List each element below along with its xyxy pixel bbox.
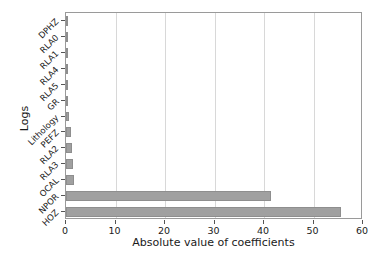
y-tick	[61, 100, 65, 101]
x-tick	[214, 220, 215, 224]
y-tick	[61, 147, 65, 148]
bar	[66, 207, 341, 217]
y-tick-label-wrap: RLA1	[0, 47, 59, 57]
x-tick	[313, 220, 314, 224]
bar	[66, 80, 68, 90]
bar	[66, 112, 69, 122]
x-tick-label: 40	[257, 225, 269, 236]
y-tick-label-wrap: RLA0	[0, 31, 59, 41]
y-tick-label-wrap: NPOR	[0, 190, 59, 200]
y-tick-label-wrap: RLA4	[0, 63, 59, 73]
x-tick-label: 10	[108, 225, 120, 236]
x-tick-label: 20	[158, 225, 170, 236]
x-tick	[362, 220, 363, 224]
y-tick-label-wrap: Lithology	[0, 111, 59, 121]
y-tick-label-wrap: GR	[0, 95, 59, 105]
y-tick	[61, 36, 65, 37]
plot-area	[65, 12, 362, 219]
bar	[66, 32, 68, 42]
y-tick	[61, 84, 65, 85]
bar	[66, 96, 68, 106]
gridline	[215, 13, 216, 218]
x-tick	[164, 220, 165, 224]
y-tick	[61, 52, 65, 53]
y-tick-label-wrap: RLA3	[0, 158, 59, 168]
x-tick	[65, 220, 66, 224]
gridline	[264, 13, 265, 218]
y-tick	[61, 211, 65, 212]
gridline	[165, 13, 166, 218]
x-tick-label: 50	[306, 225, 318, 236]
y-tick	[61, 131, 65, 132]
y-tick	[61, 116, 65, 117]
y-tick-label-wrap: HOZ	[0, 206, 59, 216]
bar	[66, 48, 68, 58]
bar	[66, 64, 68, 74]
y-tick	[61, 68, 65, 69]
y-tick	[61, 163, 65, 164]
bar	[66, 159, 73, 169]
bar	[66, 127, 71, 137]
y-tick-label-wrap: RLA5	[0, 79, 59, 89]
y-tick-label-wrap: PEFZ	[0, 126, 59, 136]
y-tick	[61, 195, 65, 196]
y-tick-label: HOZ	[40, 207, 60, 227]
y-tick	[61, 20, 65, 21]
x-tick-label: 60	[356, 225, 368, 236]
gridline	[116, 13, 117, 218]
x-tick	[115, 220, 116, 224]
y-tick-label-wrap: DPHZ	[0, 15, 59, 25]
y-tick-label-wrap: RLA2	[0, 142, 59, 152]
x-tick	[263, 220, 264, 224]
bar	[66, 191, 271, 201]
x-tick-label: 30	[207, 225, 219, 236]
x-tick-label: 0	[62, 225, 68, 236]
bar	[66, 143, 72, 153]
figure: Logs 0102030405060 DPHZRLA0RLA1RLA4RLA5G…	[0, 0, 378, 257]
y-tick-label-wrap: OCAL	[0, 174, 59, 184]
bar	[66, 175, 74, 185]
x-axis-title: Absolute value of coefficients	[65, 236, 362, 249]
gridline	[314, 13, 315, 218]
bar	[66, 16, 68, 26]
y-tick	[61, 179, 65, 180]
